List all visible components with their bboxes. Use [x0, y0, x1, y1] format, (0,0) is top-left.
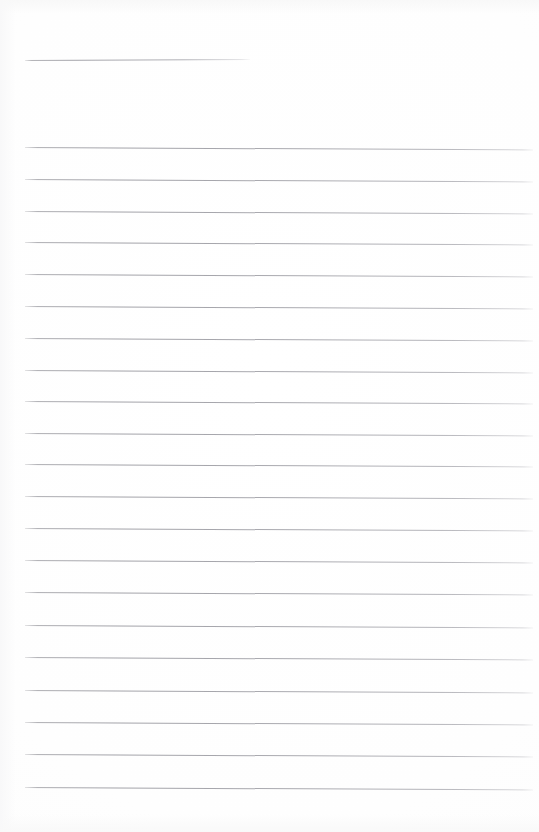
- ruled-line: [25, 370, 533, 373]
- ruled-line: [25, 754, 533, 757]
- ruled-lines-area: [0, 0, 539, 832]
- ruled-line: [25, 242, 533, 245]
- ruled-line: [25, 464, 533, 467]
- ruled-line: [25, 338, 533, 341]
- ruled-line: [25, 401, 533, 404]
- ruled-line: [25, 147, 533, 150]
- ruled-line: [25, 274, 533, 277]
- ruled-line: [25, 306, 533, 309]
- ruled-line: [25, 657, 533, 660]
- ruled-line: [25, 625, 533, 628]
- ruled-line: [25, 722, 533, 725]
- ruled-line: [25, 528, 533, 531]
- ruled-line: [25, 496, 533, 499]
- notebook-page: [0, 0, 539, 832]
- ruled-line: [25, 787, 533, 790]
- ruled-line: [25, 560, 533, 563]
- ruled-line: [25, 690, 533, 693]
- ruled-line: [25, 211, 533, 214]
- ruled-line: [25, 592, 533, 595]
- ruled-line: [25, 179, 533, 182]
- ruled-line: [25, 433, 533, 436]
